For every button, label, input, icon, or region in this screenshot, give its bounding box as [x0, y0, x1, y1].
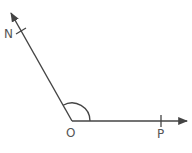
label-p: P [157, 127, 164, 141]
angle-diagram: O P N [0, 0, 192, 153]
label-n: N [4, 27, 13, 41]
tick-n [16, 28, 26, 34]
label-o: O [66, 126, 75, 140]
